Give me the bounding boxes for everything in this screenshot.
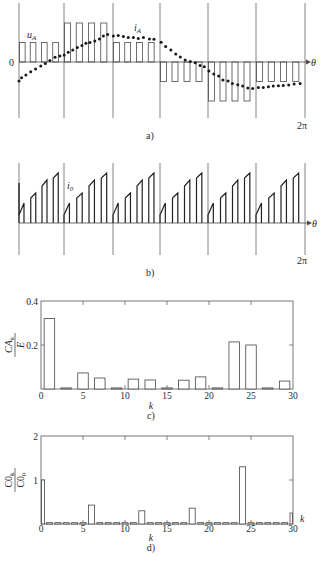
bar-k6 (88, 505, 94, 524)
bar-k22 (223, 523, 229, 524)
bar-k4 (72, 523, 78, 524)
panel-b-caption: b) (146, 267, 154, 279)
panel-d-y-axis-label: C0k C00 (3, 468, 28, 492)
panel-b-dc-current-waveform: i0 θ 2π b) (19, 163, 317, 279)
i-a-point (184, 59, 187, 62)
panel-d-caption: d) (147, 542, 155, 554)
i-a-point (221, 79, 224, 82)
bar-k25 (246, 345, 257, 389)
i-a-point (199, 64, 202, 67)
i-a-point (179, 56, 182, 59)
i-a-point (227, 80, 230, 83)
i-a-point (137, 37, 140, 40)
bar-k18 (189, 508, 195, 524)
i-a-point (76, 46, 79, 49)
i-a-point (67, 51, 70, 54)
i-a-point (203, 65, 206, 68)
panel-c-voltage-harmonic-spectrum: 0510152025300.20.4 CAk E k c) (3, 297, 298, 423)
panel-a-u-label: uA (27, 29, 37, 42)
bar-k13 (145, 380, 156, 389)
x-tick-label: 25 (246, 524, 256, 534)
bar-k27 (263, 388, 274, 389)
i-a-point (267, 85, 270, 88)
i-a-point (127, 36, 130, 39)
i-a-point (112, 35, 115, 38)
panel-a-plot-area (18, 3, 312, 118)
x-tick-label: 25 (246, 391, 256, 401)
bar-k17 (179, 380, 190, 389)
i-a-point (293, 83, 296, 86)
i-a-point (164, 45, 167, 48)
panel-a-caption: a) (146, 130, 154, 142)
u-a-pulse (148, 43, 154, 63)
i-a-point (299, 82, 302, 85)
i-a-point (29, 70, 32, 73)
x-tick-label: 15 (162, 524, 172, 534)
i-a-point (132, 36, 135, 39)
i-a-point (84, 42, 87, 45)
i-a-point (58, 55, 61, 58)
bar-k20 (206, 523, 212, 524)
bar-k29 (282, 523, 288, 524)
panel-a-2pi-label: 2π (297, 120, 307, 131)
panel-c-ylabel-denominator: E (15, 342, 26, 349)
bar-k7 (95, 378, 106, 389)
u-a-pulse (232, 62, 238, 101)
bar-k21 (212, 388, 223, 389)
u-a-pulse (101, 23, 107, 62)
i-a-point (207, 70, 210, 73)
bar-k14 (156, 523, 162, 524)
x-tick-label: 0 (39, 524, 44, 534)
i-a-point (251, 87, 254, 90)
bar-k30 (290, 513, 292, 524)
bar-k11 (130, 523, 136, 524)
bar-k23 (229, 342, 240, 389)
x-tick-label: 5 (81, 391, 86, 401)
x-tick-label: 30 (288, 391, 298, 401)
i-a-point (148, 38, 151, 41)
i-a-point (88, 41, 91, 44)
i-a-point (272, 85, 275, 88)
panel-b-2pi-label: 2π (297, 255, 307, 266)
i-a-point (71, 49, 74, 52)
i-a-point (212, 73, 215, 76)
bar-k24 (240, 467, 246, 524)
bar-k7 (97, 523, 103, 524)
u-a-pulse (244, 62, 250, 101)
x-tick-label: 10 (120, 524, 130, 534)
panel-d-x-axis-right-label: k (300, 513, 305, 524)
i-a-point (18, 80, 21, 83)
panel-b-i0-label: i0 (67, 180, 74, 193)
i-a-point (287, 84, 290, 87)
i-a-point (34, 68, 37, 71)
i-a-point (277, 84, 280, 87)
bar-k3 (63, 523, 69, 524)
bar-k1 (46, 523, 52, 524)
i-a-point (117, 34, 120, 37)
y-tick-label: 0.4 (26, 297, 38, 307)
i-a-point (236, 83, 239, 86)
panel-c-y-axis-label: CAk E (3, 333, 26, 357)
u-a-pulse (114, 43, 120, 63)
u-a-pulse (293, 62, 299, 82)
panel-a-voltage-current-waveform: 0 uA iA θ 2π a) (9, 3, 316, 142)
bar-k17 (181, 523, 187, 524)
bar-k16 (172, 523, 178, 524)
i-a-point (174, 53, 177, 56)
panel-b-theta-label: θ (312, 218, 317, 229)
i-a-point (102, 35, 105, 38)
i-a-point (246, 87, 249, 90)
panel-a-theta-label: θ (311, 57, 316, 68)
x-tick-label: 30 (288, 524, 298, 534)
i-a-point (241, 85, 244, 88)
bar-k21 (214, 523, 220, 524)
bar-k5 (78, 373, 89, 389)
figure: 0 uA iA θ 2π a) i0 θ 2π b) 0510152025300… (0, 0, 323, 561)
u-a-pulse (184, 62, 190, 82)
bar-k15 (162, 388, 173, 389)
i-a-point (106, 33, 109, 36)
bar-k1 (44, 319, 55, 389)
y-tick-label: 0.2 (26, 341, 38, 351)
bar-k5 (80, 523, 86, 524)
i-a-point (20, 76, 23, 79)
